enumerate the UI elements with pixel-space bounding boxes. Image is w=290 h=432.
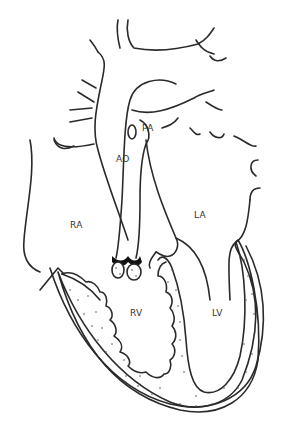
ventricular-wall bbox=[40, 240, 263, 412]
label-la: LA bbox=[194, 210, 207, 220]
label-lv: LV bbox=[212, 308, 223, 318]
label-rv: RV bbox=[130, 308, 143, 318]
right-atrium bbox=[24, 140, 74, 272]
heart-diagram: PA AO RA LA RV LV bbox=[0, 0, 290, 432]
pulmonary-artery bbox=[116, 80, 260, 258]
ao-pa-junction bbox=[128, 125, 136, 139]
label-ao: AO bbox=[116, 154, 130, 164]
label-ra: RA bbox=[70, 220, 83, 230]
myocardium-stipple bbox=[69, 259, 255, 407]
left-atrium bbox=[146, 140, 250, 300]
semilunar-valve bbox=[112, 256, 142, 280]
label-pa: PA bbox=[142, 123, 154, 133]
